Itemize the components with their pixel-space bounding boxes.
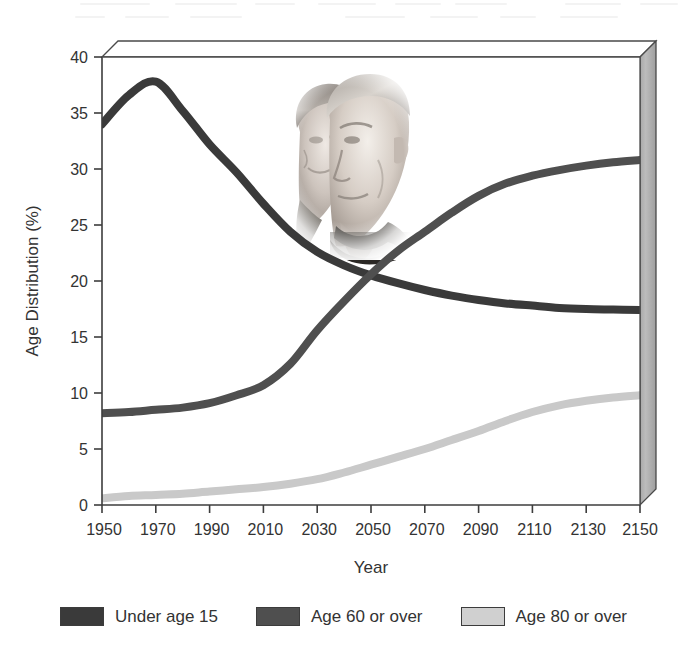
- age-distribution-chart: 40 35 30 25 20 15 10 5 0 1950 1970 1990 …: [0, 0, 687, 598]
- x-tick-label: 2110: [517, 521, 552, 538]
- y-tick-label: 40: [70, 49, 88, 66]
- legend-item-label: Age 80 or over: [516, 608, 628, 625]
- y-tick-marks: [94, 57, 102, 505]
- chart-legend: Under age 15 Age 60 or over Age 80 or ov…: [0, 598, 687, 634]
- y-tick-label: 30: [70, 161, 88, 178]
- legend-item-age-60-or-over[interactable]: Age 60 or over: [256, 607, 423, 626]
- x-tick-label: 2090: [463, 521, 499, 538]
- legend-item-label: Under age 15: [115, 608, 218, 625]
- x-tick-label: 2130: [570, 521, 606, 538]
- y-tick-labels: 40 35 30 25 20 15 10 5 0: [70, 49, 88, 514]
- x-tick-label: 1950: [86, 521, 122, 538]
- x-axis-title: Year: [354, 558, 389, 577]
- legend-item-age-80-or-over[interactable]: Age 80 or over: [461, 607, 628, 626]
- chart-right-face: [640, 41, 656, 505]
- x-tick-labels: 1950 1970 1990 2010 2030 2050 2070 2090 …: [86, 521, 658, 538]
- x-tick-label: 2050: [355, 521, 391, 538]
- x-tick-marks: [102, 505, 640, 513]
- x-tick-label: 2070: [409, 521, 445, 538]
- x-tick-label: 1970: [140, 521, 176, 538]
- y-tick-label: 0: [79, 497, 88, 514]
- legend-swatch-icon: [60, 607, 104, 626]
- y-tick-label: 10: [70, 385, 88, 402]
- x-tick-label: 2030: [301, 521, 337, 538]
- y-tick-label: 35: [70, 105, 88, 122]
- y-tick-label: 15: [70, 329, 88, 346]
- legend-swatch-icon: [461, 607, 505, 626]
- x-tick-label: 2150: [622, 521, 658, 538]
- legend-item-under-age-15[interactable]: Under age 15: [60, 607, 218, 626]
- y-tick-label: 25: [70, 217, 88, 234]
- y-tick-label: 20: [70, 273, 88, 290]
- y-tick-label: 5: [79, 441, 88, 458]
- chart-top-face: [102, 41, 656, 57]
- legend-item-label: Age 60 or over: [311, 608, 423, 625]
- x-tick-label: 2010: [248, 521, 284, 538]
- x-tick-label: 1990: [194, 521, 230, 538]
- legend-swatch-icon: [256, 607, 300, 626]
- y-axis-title: Age Distribution (%): [23, 205, 42, 356]
- figure-container: 40 35 30 25 20 15 10 5 0 1950 1970 1990 …: [0, 0, 687, 646]
